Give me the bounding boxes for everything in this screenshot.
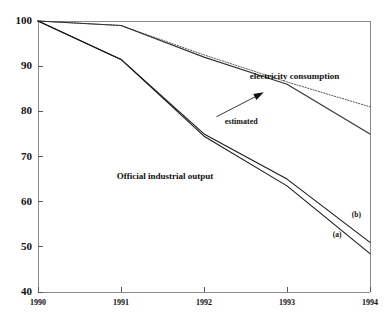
series-lines bbox=[38, 21, 370, 254]
chart-plot-area bbox=[0, 0, 389, 329]
tick-marks bbox=[38, 21, 370, 292]
estimated-label: estimated bbox=[225, 117, 258, 126]
x-axis-tick-label: 1991 bbox=[101, 298, 141, 307]
series-b-label: (b) bbox=[352, 210, 361, 219]
y-axis-tick-label: 40 bbox=[6, 285, 32, 297]
y-axis-tick-label: 80 bbox=[6, 104, 32, 116]
official-industrial-output-label: Official industrial output bbox=[117, 171, 214, 181]
y-axis-tick-label: 90 bbox=[6, 59, 32, 71]
y-axis-tick-label: 70 bbox=[6, 150, 32, 162]
x-axis-tick-label: 1992 bbox=[184, 298, 224, 307]
y-axis-tick-label: 100 bbox=[6, 14, 32, 26]
x-axis-tick-label: 1990 bbox=[18, 298, 58, 307]
estimated-pointer-arrow bbox=[216, 92, 263, 116]
line-chart: 405060708090100 19901991199219931994 ele… bbox=[0, 0, 389, 329]
x-axis-tick-label: 1994 bbox=[350, 298, 389, 307]
series-a-label: (a) bbox=[333, 230, 342, 239]
electricity-consumption-label: electricity consumption bbox=[250, 71, 340, 81]
x-axis-tick-label: 1993 bbox=[267, 298, 307, 307]
y-axis-tick-label: 50 bbox=[6, 240, 32, 252]
axis-frame bbox=[38, 21, 370, 292]
y-axis-tick-label: 60 bbox=[6, 195, 32, 207]
